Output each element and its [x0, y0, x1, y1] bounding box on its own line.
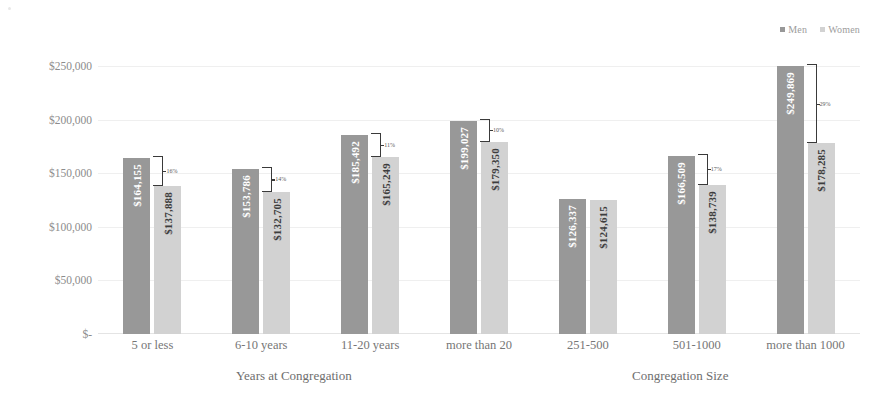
gap-bracket-label: 17%	[711, 166, 722, 172]
axis-title-congregation-size: Congregation Size	[632, 368, 728, 384]
legend-label-men: Men	[788, 24, 807, 35]
legend-swatch-men	[780, 27, 785, 32]
x-axis-category-label: 251-500	[533, 338, 642, 353]
legend-item-men: Men	[780, 24, 807, 35]
bar-value-label: $138,739	[706, 191, 718, 234]
x-axis-category-label: 11-20 years	[316, 338, 425, 353]
bar-men[interactable]: $126,337	[559, 199, 586, 334]
bar-men[interactable]: $249,869	[777, 66, 804, 334]
corner-speck	[8, 7, 11, 10]
bar-group: $249,869$178,28529%	[751, 66, 860, 334]
bar-value-label: $137,888	[162, 192, 174, 235]
gap-bracket: 14%	[262, 167, 272, 192]
bar-men[interactable]: $166,509	[668, 156, 695, 334]
bar-value-label: $165,249	[380, 163, 392, 206]
gap-bracket-label: 29%	[820, 101, 831, 107]
bar-group: $153,786$132,70514%	[207, 66, 316, 334]
bar-value-label: $249,869	[784, 72, 796, 115]
bar-chart: Men Women $250,000$200,000$150,000$100,0…	[0, 0, 874, 414]
bar-women[interactable]: $178,285	[808, 143, 835, 334]
bar-group: $166,509$138,73917%	[642, 66, 751, 334]
bar-women[interactable]: $124,615	[590, 200, 617, 334]
bar-women[interactable]: $132,705	[263, 192, 290, 334]
plot-area: $164,155$137,88816%$153,786$132,70514%$1…	[98, 66, 860, 334]
bar-women[interactable]: $179,350	[481, 142, 508, 334]
gap-bracket: 29%	[807, 64, 817, 143]
bar-groups: $164,155$137,88816%$153,786$132,70514%$1…	[98, 66, 860, 334]
bar-value-label: $178,285	[815, 149, 827, 192]
x-axis-category-label: 5 or less	[98, 338, 207, 353]
bar-men[interactable]: $164,155	[123, 158, 150, 334]
x-axis-category-label: 6-10 years	[207, 338, 316, 353]
bar-group: $199,027$179,35010%	[425, 66, 534, 334]
bar-value-label: $124,615	[597, 206, 609, 249]
x-axis-category-label: 501-1000	[642, 338, 751, 353]
bar-value-label: $132,705	[271, 198, 283, 241]
bar-men[interactable]: $185,492	[341, 135, 368, 334]
y-axis: $250,000$200,000$150,000$100,000$50,000$…	[0, 66, 92, 334]
axis-title-years-at-congregation: Years at Congregation	[236, 368, 352, 384]
y-axis-tick-label: $100,000	[4, 221, 92, 233]
bar-men[interactable]: $153,786	[232, 169, 259, 334]
bar-value-label: $179,350	[489, 148, 501, 191]
y-axis-tick-label: $250,000	[4, 60, 92, 72]
bar-men[interactable]: $199,027	[450, 121, 477, 334]
y-axis-tick-label: $200,000	[4, 114, 92, 126]
y-axis-tick-label: $50,000	[4, 274, 92, 286]
bar-value-label: $166,509	[675, 162, 687, 205]
x-axis-category-label: more than 20	[425, 338, 534, 353]
gap-bracket: 16%	[153, 156, 163, 186]
gap-bracket: 11%	[371, 133, 381, 157]
y-axis-tick-label: $-	[4, 328, 92, 340]
gap-bracket-label: 16%	[166, 168, 177, 174]
bar-group: $164,155$137,88816%	[98, 66, 207, 334]
gap-bracket-label: 14%	[275, 176, 286, 182]
gap-bracket-label: 11%	[384, 142, 395, 148]
bar-group: $185,492$165,24911%	[316, 66, 425, 334]
x-axis-category-labels: 5 or less6-10 years11-20 yearsmore than …	[98, 338, 860, 353]
bar-women[interactable]: $137,888	[154, 186, 181, 334]
bar-women[interactable]: $165,249	[372, 157, 399, 334]
y-axis-tick-label: $150,000	[4, 167, 92, 179]
bar-value-label: $164,155	[131, 164, 143, 207]
bar-value-label: $126,337	[566, 205, 578, 248]
bar-group: $126,337$124,615	[533, 66, 642, 334]
x-axis-category-label: more than 1000	[751, 338, 860, 353]
legend-item-women: Women	[820, 24, 860, 35]
gap-bracket-label: 10%	[493, 127, 504, 133]
legend-label-women: Women	[828, 24, 860, 35]
gap-bracket: 17%	[698, 154, 708, 186]
gap-bracket: 10%	[480, 119, 490, 142]
chart-legend: Men Women	[780, 24, 860, 35]
bar-value-label: $199,027	[458, 127, 470, 170]
bar-value-label: $185,492	[349, 141, 361, 184]
bar-women[interactable]: $138,739	[699, 185, 726, 334]
legend-swatch-women	[820, 27, 825, 32]
bar-value-label: $153,786	[240, 175, 252, 218]
